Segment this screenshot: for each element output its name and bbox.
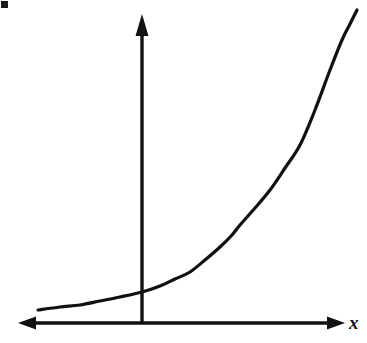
y-axis-up-arrowhead [136,14,149,36]
plot-canvas [0,0,367,343]
x-axis-label: x [349,313,359,332]
x-axis-left-arrowhead [18,317,36,330]
x-axis-right-arrowhead [327,317,345,330]
exponential-curve-path [38,10,357,310]
exponential-curve-figure: x [0,0,367,343]
